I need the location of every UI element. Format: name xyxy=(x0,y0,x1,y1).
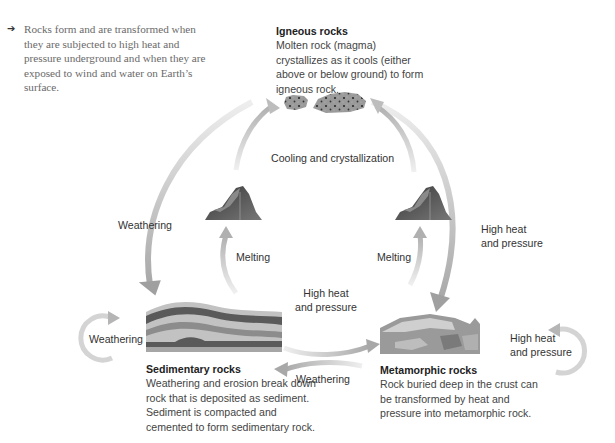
label-cooling-crystallization: Cooling and crystallization xyxy=(271,151,394,165)
label-melting-right: Melting xyxy=(377,250,411,264)
label-weathering-outer-left: Weathering xyxy=(118,218,172,232)
intro-text: Rocks form and are transformed when they… xyxy=(8,22,208,95)
sedimentary-title: Sedimentary rocks xyxy=(146,362,321,376)
label-weathering-loop: Weathering xyxy=(89,332,143,346)
metamorphic-title: Metamorphic rocks xyxy=(380,363,550,377)
sedimentary-description: Weathering and erosion break down rock t… xyxy=(146,376,321,434)
metamorphic-description: Rock buried deep in the crust can be tra… xyxy=(380,377,550,421)
label-line-2: and pressure xyxy=(481,236,543,250)
sedimentary-block: Sedimentary rocks Weathering and erosion… xyxy=(146,362,321,434)
arrow-melting-right xyxy=(410,226,427,285)
sedimentary-rock-image xyxy=(146,302,282,352)
label-heat-pressure-loop: High heat and pressure xyxy=(510,331,572,359)
igneous-block: Igneous rocks Molten rock (magma) crysta… xyxy=(276,24,426,96)
igneous-description: Molten rock (magma) crystallizes as it c… xyxy=(276,38,426,96)
volcano-left-image xyxy=(205,186,262,220)
label-heat-pressure-middle: High heat and pressure xyxy=(295,286,357,314)
arrow-right-icon: ➔ xyxy=(7,22,15,37)
label-line-1: High heat xyxy=(510,331,572,345)
label-line-2: and pressure xyxy=(510,345,572,359)
metamorphic-rock-image xyxy=(380,314,480,354)
label-weathering-middle: Weathering xyxy=(296,372,350,386)
arrow-melting-left xyxy=(219,226,236,293)
igneous-title: Igneous rocks xyxy=(276,24,426,38)
label-line-2: and pressure xyxy=(295,300,357,314)
intro-note: ➔ Rocks form and are transformed when th… xyxy=(8,22,208,95)
label-melting-left: Melting xyxy=(236,250,270,264)
volcano-right-image xyxy=(395,186,452,220)
metamorphic-block: Metamorphic rocks Rock buried deep in th… xyxy=(380,363,550,421)
label-heat-pressure-outer-right: High heat and pressure xyxy=(481,222,543,250)
label-line-1: High heat xyxy=(295,286,357,300)
arrow-sed-to-meta xyxy=(284,339,380,355)
label-line-1: High heat xyxy=(481,222,543,236)
